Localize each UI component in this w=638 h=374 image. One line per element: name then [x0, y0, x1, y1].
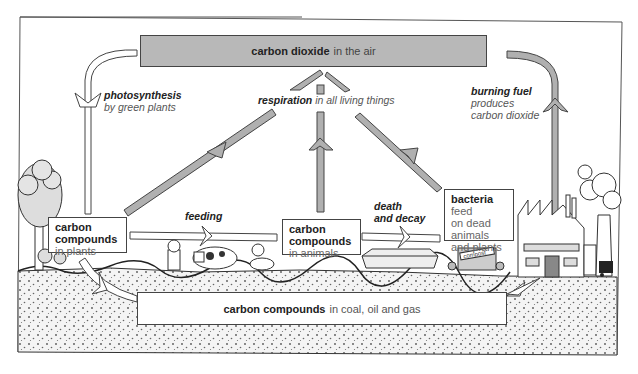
animals-bold-2: compounds: [289, 235, 354, 247]
bacteria-box: bacteria feed on dead animals and plants: [444, 189, 514, 241]
photosynthesis-bold: photosynthesis: [104, 89, 182, 101]
coffin-illustration: [362, 249, 438, 268]
death-line1: death: [374, 200, 402, 212]
factory-illustration: [518, 165, 621, 277]
co2-rest: in the air: [334, 45, 376, 57]
animals-illustration: [168, 240, 274, 270]
respiration-rest: in all living things: [315, 94, 394, 106]
carbon-compounds-plants-box: carbon compounds in plants: [48, 217, 127, 253]
burning-fuel-line3: carbon dioxide: [471, 109, 539, 121]
respiration-label: respiration in all living things: [258, 94, 395, 106]
co2-bold: carbon dioxide: [251, 45, 329, 57]
death-decay-arrow: [362, 233, 440, 242]
fossil-rest: in coal, oil and gas: [329, 303, 420, 315]
bacteria-line2: on dead: [451, 217, 491, 229]
bacteria-line3: animals: [451, 229, 489, 241]
feeding-label: feeding: [185, 210, 222, 222]
death-line2: and decay: [374, 212, 425, 224]
plants-bold-2: compounds: [55, 233, 120, 245]
animals-bold-1: carbon: [289, 223, 354, 235]
respiration-arrow-bacteria: [355, 113, 442, 192]
photosynthesis-arrow: [85, 50, 137, 214]
burning-fuel-bold: burning fuel: [471, 85, 532, 97]
burning-fuel-label: burning fuel produces carbon dioxide: [471, 85, 539, 121]
photosynthesis-label: photosynthesis by green plants: [104, 89, 182, 113]
animals-rest: in animals: [289, 247, 339, 259]
fossil-bold: carbon compounds: [223, 303, 325, 315]
plants-bold-1: carbon: [55, 221, 120, 233]
carbon-compounds-animals-box: carbon compounds in animals: [282, 219, 361, 255]
carbon-compounds-fossil-box: carbon compounds in coal, oil and gas: [137, 292, 507, 325]
bacteria-line4: and plants: [451, 241, 502, 253]
death-decay-label: death and decay: [374, 200, 425, 224]
respiration-bold: respiration: [258, 94, 312, 106]
burning-fuel-line2: produces: [471, 97, 514, 109]
photosynthesis-rest: by green plants: [104, 101, 176, 113]
respiration-arrow-plants: [124, 109, 276, 216]
bacteria-line1: feed: [451, 205, 472, 217]
respiration-arrow-animals: [317, 112, 324, 212]
plants-rest: in plants: [55, 245, 96, 257]
carbon-dioxide-box: carbon dioxide in the air: [140, 35, 487, 67]
bacteria-bold: bacteria: [451, 193, 493, 205]
